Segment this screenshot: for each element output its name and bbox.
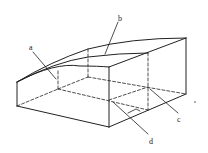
solid-edges — [17, 38, 186, 127]
label-a: a — [29, 43, 33, 52]
hidden-edges — [17, 49, 186, 110]
label-c: c — [177, 115, 181, 124]
right-angle-marker — [128, 109, 140, 113]
label-b: b — [118, 14, 122, 23]
block-diagram: a b c d — [0, 0, 208, 153]
label-d: d — [149, 137, 153, 146]
dot-marker — [194, 101, 196, 103]
